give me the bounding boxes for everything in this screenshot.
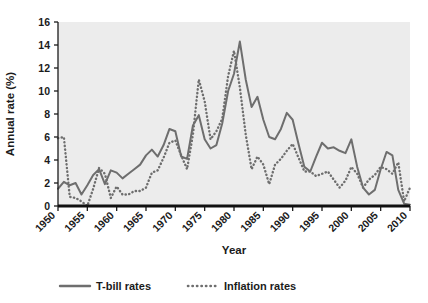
chart-figure: 0246810121416 19501955196019651970197519… bbox=[0, 0, 428, 303]
y-tick-label: 8 bbox=[44, 108, 50, 120]
legend-label-t-bill-rates: T-bill rates bbox=[96, 280, 151, 292]
legend-label-inflation-rates: Inflation rates bbox=[224, 280, 296, 292]
plot-background bbox=[58, 22, 410, 206]
y-tick-label: 16 bbox=[38, 16, 50, 28]
chart-canvas: 0246810121416 19501955196019651970197519… bbox=[0, 0, 428, 303]
x-axis-title: Year bbox=[222, 244, 247, 256]
y-tick-label: 6 bbox=[44, 131, 50, 143]
y-tick-label: 4 bbox=[44, 154, 50, 166]
plot-area-background bbox=[58, 22, 410, 206]
y-tick-label: 12 bbox=[38, 62, 50, 74]
y-tick-label: 2 bbox=[44, 177, 50, 189]
y-tick-label: 10 bbox=[38, 85, 50, 97]
y-axis-title: Annual rate (%) bbox=[4, 72, 16, 157]
y-tick-label: 14 bbox=[38, 39, 50, 51]
